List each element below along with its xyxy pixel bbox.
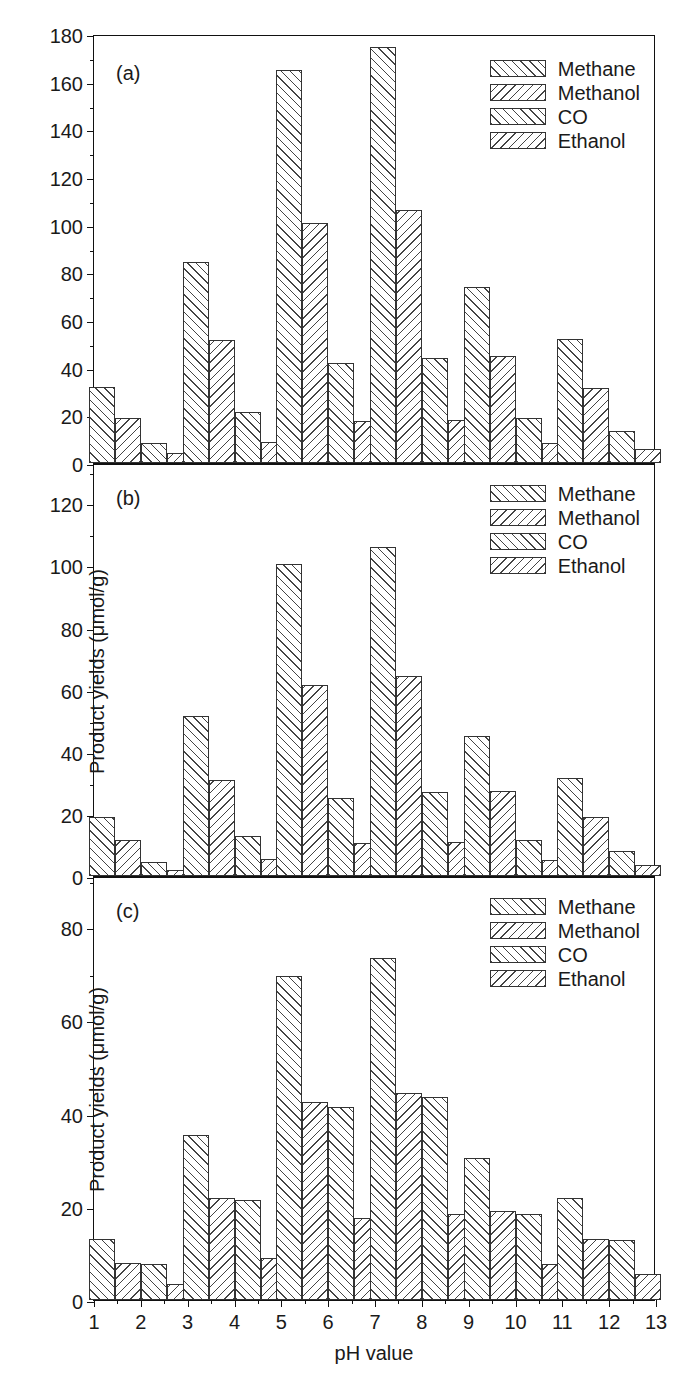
bar xyxy=(635,449,661,463)
legend-swatch-ethanol xyxy=(490,557,546,574)
bar xyxy=(141,862,167,876)
bar xyxy=(141,443,167,463)
legend-label: Ethanol xyxy=(558,131,626,151)
panel-label: (c) xyxy=(116,900,139,923)
legend-item-ethanol: Ethanol xyxy=(490,968,640,989)
bar xyxy=(557,1198,583,1301)
bar xyxy=(276,976,302,1300)
x-axis-tick xyxy=(328,1300,329,1307)
y-axis-tick-label: 0 xyxy=(72,1292,83,1312)
y-axis-tick-label: 160 xyxy=(50,74,83,94)
bar xyxy=(557,778,583,876)
bar xyxy=(89,1239,115,1300)
legend-item-methane: Methane xyxy=(490,483,640,504)
y-axis-minor-tick xyxy=(90,474,94,475)
legend: MethaneMethanolCOEthanol xyxy=(490,58,640,154)
bar xyxy=(464,1158,490,1300)
x-axis-tick-label: 7 xyxy=(369,1312,380,1332)
bar xyxy=(422,1097,448,1300)
y-axis-tick-label: 20 xyxy=(61,806,83,826)
bar xyxy=(89,817,115,876)
x-axis-tick xyxy=(656,1300,657,1307)
legend-label: Methanol xyxy=(558,921,640,941)
x-axis-tick xyxy=(469,1300,470,1307)
bar xyxy=(209,340,235,463)
bar xyxy=(115,1263,141,1300)
bar xyxy=(370,47,396,463)
bar xyxy=(276,70,302,463)
x-axis-tick xyxy=(94,1300,95,1307)
legend-label: Methanol xyxy=(558,83,640,103)
x-axis-minor-tick xyxy=(352,1300,353,1304)
y-axis-tick-label: 140 xyxy=(50,121,83,141)
x-axis-tick xyxy=(562,1300,563,1307)
y-axis-tick xyxy=(87,179,94,180)
x-axis-tick-label: 1 xyxy=(88,1312,99,1332)
legend-item-methane: Methane xyxy=(490,896,640,917)
panel-label: (b) xyxy=(116,487,140,510)
x-axis-tick-label: 12 xyxy=(598,1312,620,1332)
bar xyxy=(115,840,141,876)
x-axis-minor-tick xyxy=(586,1300,587,1304)
plot-area: 020406080100120140160180(a)MethaneMethan… xyxy=(93,35,655,464)
y-axis-tick xyxy=(87,1302,94,1303)
y-axis-tick-label: 80 xyxy=(61,264,83,284)
y-axis-minor-tick xyxy=(90,108,94,109)
x-axis-tick-label: 2 xyxy=(135,1312,146,1332)
legend-item-methanol: Methanol xyxy=(490,920,640,941)
y-axis-tick-label: 60 xyxy=(61,682,83,702)
legend-label: Ethanol xyxy=(558,969,626,989)
x-axis-minor-tick xyxy=(305,1300,306,1304)
x-axis-tick xyxy=(281,1300,282,1307)
y-axis-tick xyxy=(87,36,94,37)
bar xyxy=(370,547,396,876)
bar xyxy=(183,262,209,463)
bar xyxy=(328,798,354,876)
y-axis-minor-tick xyxy=(90,251,94,252)
bar xyxy=(609,851,635,876)
panel-c: 02040608012345678910111213pH valueProduc… xyxy=(0,877,679,1301)
bar xyxy=(422,792,448,876)
bar xyxy=(235,1200,261,1300)
bar xyxy=(115,418,141,463)
bar xyxy=(516,418,542,463)
panel-label: (a) xyxy=(116,62,140,85)
x-axis-title: pH value xyxy=(335,1342,414,1365)
bar xyxy=(516,840,542,876)
x-axis-minor-tick xyxy=(445,1300,446,1304)
x-axis-minor-tick xyxy=(398,1300,399,1304)
y-axis-minor-tick xyxy=(90,883,94,884)
bar xyxy=(557,339,583,463)
y-axis-tick-label: 80 xyxy=(61,620,83,640)
x-axis-minor-tick xyxy=(492,1300,493,1304)
y-axis-tick-label: 120 xyxy=(50,169,83,189)
bar xyxy=(464,736,490,876)
y-axis-tick-label: 180 xyxy=(50,26,83,46)
legend-label: Ethanol xyxy=(558,556,626,576)
legend-swatch-ethanol xyxy=(490,132,546,149)
bar xyxy=(183,1135,209,1300)
legend-swatch-co xyxy=(490,946,546,963)
legend-item-co: CO xyxy=(490,106,640,127)
legend-label: CO xyxy=(558,532,588,552)
plot-area: 02040608012345678910111213pH valueProduc… xyxy=(93,877,655,1301)
bar xyxy=(635,865,661,876)
y-axis-tick xyxy=(87,505,94,506)
y-axis-title: Product yields (μmol/g) xyxy=(86,526,109,816)
x-axis-tick-label: 4 xyxy=(229,1312,240,1332)
legend-swatch-co xyxy=(490,108,546,125)
x-axis-tick-label: 10 xyxy=(504,1312,526,1332)
panel-a: 020406080100120140160180(a)MethaneMethan… xyxy=(0,35,679,464)
bar xyxy=(370,958,396,1300)
legend-item-ethanol: Ethanol xyxy=(490,555,640,576)
y-axis-minor-tick xyxy=(90,203,94,204)
legend-item-ethanol: Ethanol xyxy=(490,130,640,151)
legend-item-methanol: Methanol xyxy=(490,507,640,528)
y-axis-tick xyxy=(87,84,94,85)
bar xyxy=(141,1264,167,1300)
y-axis-tick-label: 120 xyxy=(50,495,83,515)
legend-label: Methane xyxy=(558,59,636,79)
y-axis-tick xyxy=(87,929,94,930)
legend-swatch-methanol xyxy=(490,509,546,526)
y-axis-tick-label: 40 xyxy=(61,360,83,380)
